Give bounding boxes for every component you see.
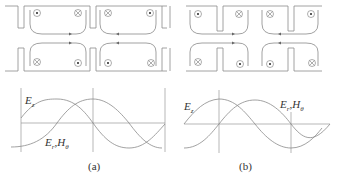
arrow-icon [69, 42, 72, 45]
panel-b-lower-wall [186, 48, 322, 71]
arrow-icon [232, 33, 235, 36]
arrow-icon [116, 33, 119, 36]
cross-in-circle-icon [148, 60, 155, 67]
er-h-label: Er,Hθ [279, 98, 304, 113]
arrow-icon [232, 42, 235, 45]
ez-label: Ez [24, 94, 35, 109]
arrow-icon [116, 42, 119, 45]
cross-in-circle-icon [75, 10, 82, 17]
dot-in-circle-icon [105, 60, 112, 67]
panel-b-caption: (b) [239, 160, 252, 173]
cross-in-circle-icon [267, 11, 274, 18]
arrow-icon [69, 33, 72, 36]
panel-b-cavity-structure [170, 6, 322, 71]
dot-in-circle-icon [34, 10, 41, 17]
er-h-label: Er,Hθ [44, 136, 69, 151]
cross-in-circle-icon [195, 59, 202, 66]
diagram-canvas: Ez Er,Hθ (a) Ez Er,Hθ (b) [0, 0, 338, 176]
panel-b-wave-plot: Ez Er,Hθ (b) [183, 90, 330, 173]
dot-in-circle-icon [75, 60, 82, 67]
dot-in-circle-icon [237, 61, 244, 68]
dot-in-circle-icon [195, 11, 202, 18]
cross-in-circle-icon [34, 59, 41, 66]
panel-a-cavity-structure [5, 6, 167, 71]
cross-in-circle-icon [236, 11, 243, 18]
dot-in-circle-icon [308, 11, 315, 18]
panel-b-upper-wall [186, 6, 322, 31]
cross-in-circle-icon [309, 60, 316, 67]
panel-a-wave-plot: Ez Er,Hθ (a) [11, 88, 165, 173]
dot-in-circle-icon [147, 10, 154, 17]
panel-b-field-loop [262, 43, 318, 66]
dot-in-circle-icon [267, 61, 274, 68]
arrow-icon [278, 42, 281, 45]
panel-a-caption: (a) [88, 160, 101, 173]
arrow-icon [278, 33, 281, 36]
ez-label: Ez [183, 100, 194, 115]
cross-in-circle-icon [105, 10, 112, 17]
